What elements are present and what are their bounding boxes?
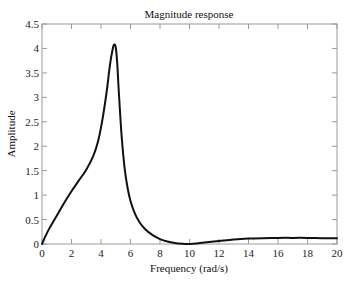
x-axis-ticks: 02468101214161820 [39,24,343,259]
y-tick-label: 3 [34,91,40,103]
y-tick-label: 3.5 [25,67,39,79]
x-tick-label: 20 [332,247,344,259]
x-tick-label: 2 [69,247,75,259]
x-tick-label: 4 [98,247,104,259]
x-tick-label: 12 [214,247,225,259]
x-tick-label: 18 [302,247,314,259]
y-tick-label: 1 [34,189,40,201]
y-tick-label: 4.5 [25,18,39,30]
y-tick-label: 2.5 [25,116,39,128]
x-tick-label: 8 [157,247,163,259]
x-tick-label: 10 [184,247,196,259]
y-tick-label: 1.5 [25,165,39,177]
x-tick-label: 0 [39,247,45,259]
y-tick-label: 2 [34,140,40,152]
plot-frame [42,24,337,244]
y-tick-label: 0.5 [25,214,39,226]
magnitude-response-chart: Magnitude response 02468101214161820 00.… [0,0,351,281]
x-tick-label: 16 [273,247,285,259]
y-axis-label: Amplitude [5,110,17,157]
y-tick-label: 4 [34,42,40,54]
x-axis-label: Frequency (rad/s) [150,262,228,275]
y-axis-ticks: 00.511.522.533.544.5 [25,18,337,250]
y-tick-label: 0 [34,238,40,250]
magnitude-curve [42,44,337,244]
x-tick-label: 6 [128,247,134,259]
chart-title: Magnitude response [145,8,234,20]
x-tick-label: 14 [243,247,255,259]
